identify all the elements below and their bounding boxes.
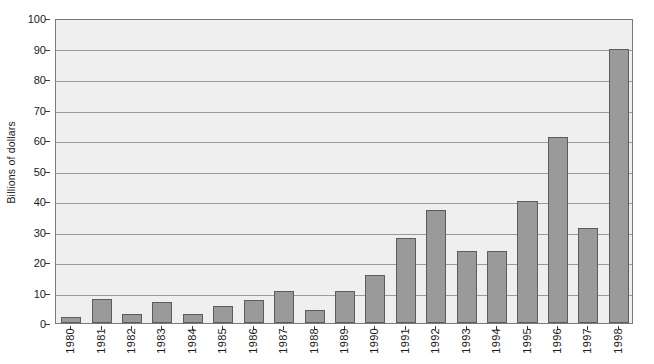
y-tick-mark <box>45 172 50 173</box>
y-tick-mark <box>45 19 50 20</box>
bar <box>426 210 446 323</box>
bar <box>213 306 233 323</box>
bar <box>274 291 294 323</box>
x-tick-label: 1986 <box>247 328 259 354</box>
y-tick-mark <box>45 111 50 112</box>
y-tick-mark <box>45 202 50 203</box>
bar <box>487 251 507 323</box>
bar <box>61 317 81 323</box>
bar <box>578 228 598 323</box>
bar <box>335 291 355 323</box>
bar <box>244 300 264 323</box>
x-tick-label: 1989 <box>338 328 350 354</box>
y-axis-title: Billions of dollars <box>0 0 22 324</box>
bar-chart: Billions of dollars 01020304050607080901… <box>0 0 654 364</box>
x-tick-label: 1984 <box>186 328 198 354</box>
x-tick-label: 1980 <box>64 328 76 354</box>
bar <box>92 299 112 323</box>
y-tick-mark <box>45 141 50 142</box>
y-axis-title-label: Billions of dollars <box>5 121 17 204</box>
y-tick-mark <box>45 233 50 234</box>
x-tick-label: 1996 <box>551 328 563 354</box>
plot-area <box>55 19 633 324</box>
bar <box>517 201 537 323</box>
bar <box>305 310 325 323</box>
x-tick-label: 1982 <box>125 328 137 354</box>
bars-layer <box>56 20 632 323</box>
bar <box>122 314 142 323</box>
x-tick-label: 1998 <box>612 328 624 354</box>
x-tick-label: 1981 <box>95 328 107 354</box>
y-tick-mark <box>45 50 50 51</box>
y-tick-mark <box>45 324 50 325</box>
bar <box>396 238 416 323</box>
y-tick-mark <box>45 294 50 295</box>
y-tick-mark <box>45 80 50 81</box>
bar <box>609 49 629 324</box>
x-tick-label: 1985 <box>216 328 228 354</box>
x-tick-label: 1987 <box>277 328 289 354</box>
x-tick-label: 1993 <box>460 328 472 354</box>
bar <box>457 251 477 323</box>
x-tick-label: 1997 <box>581 328 593 354</box>
x-tick-label: 1995 <box>521 328 533 354</box>
x-tick-label: 1994 <box>490 328 502 354</box>
bar <box>548 137 568 323</box>
bar <box>365 275 385 323</box>
x-tick-label: 1983 <box>155 328 167 354</box>
x-tick-label: 1990 <box>368 328 380 354</box>
bar <box>152 302 172 323</box>
x-tick-label: 1988 <box>308 328 320 354</box>
y-axis-tick-labels: 0102030405060708090100 <box>20 0 50 364</box>
y-tick-label: 100 <box>28 13 46 25</box>
bar <box>183 314 203 323</box>
x-tick-label: 1992 <box>429 328 441 354</box>
x-axis-tick-labels: 1980198119821983198419851986198719881989… <box>55 326 633 364</box>
y-tick-mark <box>45 263 50 264</box>
x-tick-label: 1991 <box>399 328 411 354</box>
